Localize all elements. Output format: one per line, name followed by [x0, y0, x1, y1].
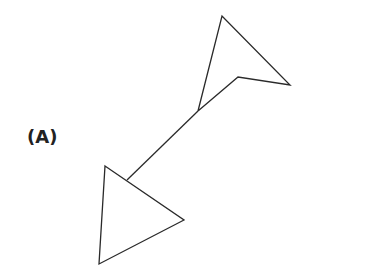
diagram-canvas	[0, 0, 371, 280]
lower-triangle-shape	[99, 166, 184, 264]
upper-arrowhead-shape	[198, 16, 290, 111]
shaft-line	[127, 111, 198, 180]
